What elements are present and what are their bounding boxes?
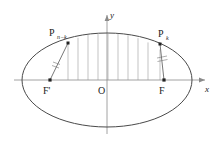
point-right-dot [159, 43, 162, 46]
point-right-label: P [158, 28, 164, 39]
congruence-tick-icon [52, 66, 59, 69]
point-left-dot [67, 42, 70, 45]
vertical-chords-group [68, 33, 160, 80]
focal-radius-right [160, 44, 164, 80]
focus-right-dot [162, 78, 165, 81]
focus-left-label: F' [43, 85, 51, 96]
congruence-tick-icon [158, 60, 168, 62]
focus-right-label: F [159, 85, 165, 96]
x-axis-group [14, 78, 205, 83]
focal-radius-left [50, 43, 68, 80]
y-axis-label: y [109, 10, 114, 20]
ellipse-diagram-container: P n−k P k F' F O y x [0, 0, 221, 142]
y-axis-arrow-icon [105, 15, 110, 21]
focal-radius-right-group [157, 44, 168, 80]
focal-radius-left-group [50, 43, 68, 80]
ellipse-figure-svg: P n−k P k F' F O y x [0, 0, 221, 142]
point-left-label: P [49, 27, 55, 38]
origin-label: O [98, 85, 105, 96]
point-left-subscript: n−k [57, 34, 67, 40]
point-right-subscript: k [166, 35, 169, 41]
x-axis-label: x [204, 84, 209, 94]
x-axis-arrow-icon [199, 78, 205, 83]
congruence-tick-icon [157, 56, 167, 58]
focus-left-dot [48, 78, 51, 81]
